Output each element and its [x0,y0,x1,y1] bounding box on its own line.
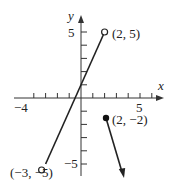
x-axis-label: x [157,78,164,93]
x-ticks [34,93,152,98]
y-tick-label-max: 5 [68,25,75,40]
y-axis-label: y [66,8,74,23]
y-axis-arrow-icon [78,15,84,23]
x-axis-arrow-icon [156,95,164,101]
point-label-lower: (−3, −5) [10,165,53,180]
point-label-upper: (2, 5) [112,26,140,41]
y-tick-label-min: −5 [64,156,78,171]
point-label-mid: (2, −2) [112,112,148,127]
open-point-upper-icon [102,29,108,35]
x-tick-label-min: −4 [14,100,28,115]
piecewise-function-graph: y x −4 5 5 −5 (2, 5) (2, −2) (−3, −5) [0,0,174,182]
ray-arrow-icon [119,168,125,178]
closed-point-icon [103,115,109,121]
